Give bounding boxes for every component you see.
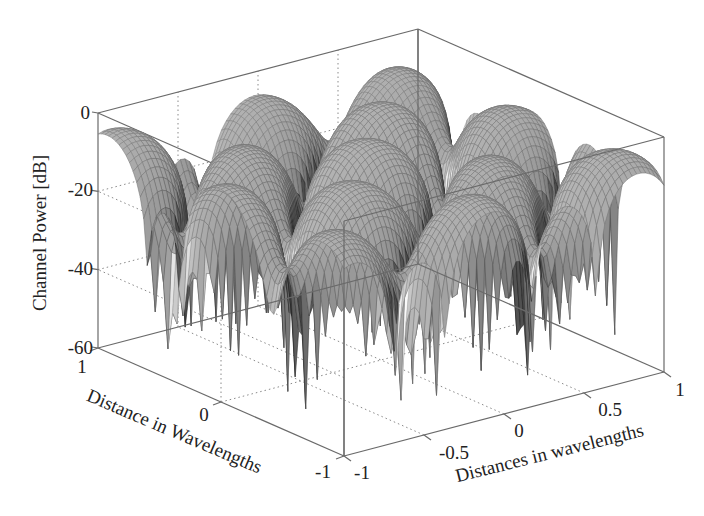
y-tick-0: 0 <box>199 404 209 425</box>
z-tick-minus-40: -40 <box>68 258 93 279</box>
z-tick-minus-20: -20 <box>68 179 93 200</box>
surface-plot: 0 -20 -40 -60 1 0 -1 -1 -0.5 0 0.5 1 Cha… <box>0 0 704 516</box>
z-tick-minus-60: -60 <box>68 337 93 358</box>
y-tick-minus-1: -1 <box>315 461 331 482</box>
z-tick-0: 0 <box>81 102 91 123</box>
x-tick-1: 1 <box>675 379 685 400</box>
x-tick-0.5: 0.5 <box>598 399 622 420</box>
surface-mesh <box>98 67 664 409</box>
y-tick-1: 1 <box>77 356 87 377</box>
x-tick-0: 0 <box>514 420 524 441</box>
y-axis-title: Distance in Wavelengths <box>84 385 265 478</box>
x-tick-minus-0.5: -0.5 <box>439 442 469 463</box>
z-axis-title: Channel Power [dB] <box>29 155 50 311</box>
x-axis-title: Distances in wavelengths <box>453 419 645 486</box>
x-tick-minus-1: -1 <box>354 462 370 483</box>
